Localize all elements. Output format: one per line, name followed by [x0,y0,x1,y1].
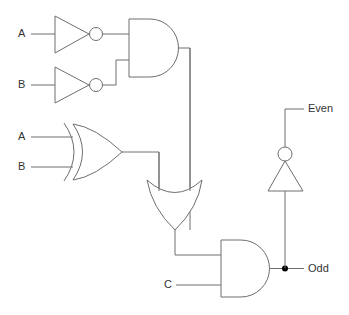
xor-gate-icon [73,124,122,180]
not-gate-b [31,60,129,103]
wire-or-to-and2 [175,230,221,255]
xor-back-curve-icon [64,123,74,181]
xor-gate [31,123,159,195]
not-triangle-icon [55,16,89,53]
output-label-even: Even [308,103,333,114]
not-gate-a [31,16,129,53]
inversion-bubble-icon [90,28,103,41]
xor-input-label-b: B [18,161,25,172]
not-gate-even [268,109,304,269]
and-gate-icon [129,19,179,77]
input-label-a: A [18,28,25,39]
output-label-odd: Odd [308,263,329,274]
wire-even-output [285,109,304,147]
logic-circuit-diagram [0,0,349,315]
not-triangle-icon [55,67,89,103]
input-label-c: C [164,279,172,290]
input-label-b: B [18,79,25,90]
inversion-bubble-icon [90,79,103,92]
or-gate-icon [147,180,202,230]
inversion-bubble-icon [278,147,292,161]
not-triangle-icon [268,161,303,191]
and-gate-icon [221,240,270,297]
xor-input-label-a: A [18,131,25,142]
